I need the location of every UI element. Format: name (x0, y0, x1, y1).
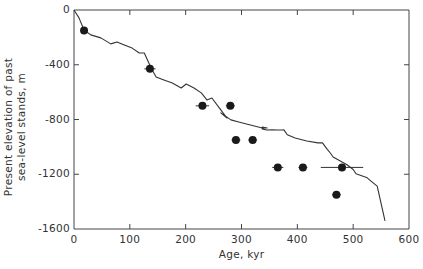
data-point (226, 102, 234, 110)
data-point (146, 65, 154, 73)
x-tick-label: 200 (175, 233, 196, 245)
sea-level-curve-line (74, 10, 385, 221)
y-tick-label: -400 (45, 58, 70, 70)
plot-frame (74, 10, 409, 229)
x-axis-label-text: Age, kyr (219, 248, 265, 260)
y-tick-label: -800 (45, 113, 70, 125)
data-point (232, 136, 240, 144)
data-point (80, 27, 88, 35)
data-points (80, 27, 363, 199)
x-tick-label: 600 (399, 233, 420, 245)
x-tick-label: 300 (231, 233, 252, 245)
x-axis-label: Age, kyr (0, 248, 423, 260)
x-tick-label: 500 (343, 233, 364, 245)
sea-level-curve (74, 10, 385, 221)
y-tick-label: -1200 (38, 167, 70, 179)
y-axis-label-line-2: sea-level stands, m (15, 42, 28, 212)
x-tick-label: 100 (119, 233, 140, 245)
data-point (274, 163, 282, 171)
y-axis-label-line-1: Present elevation of past (2, 42, 15, 212)
x-tick-label: 0 (71, 233, 78, 245)
data-point (249, 136, 257, 144)
data-point (332, 191, 340, 199)
y-tick-label: 0 (63, 3, 70, 15)
data-point (198, 102, 206, 110)
data-point (338, 163, 346, 171)
y-axis-label: Present elevation of past sea-level stan… (2, 42, 28, 212)
y-tick-label: -1600 (38, 222, 70, 234)
data-point (299, 163, 307, 171)
x-tick-label: 400 (287, 233, 308, 245)
